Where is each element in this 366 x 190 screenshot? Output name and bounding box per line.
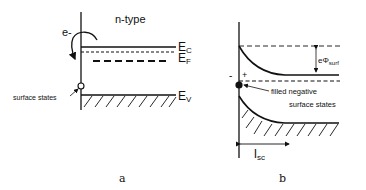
ev-label: EV <box>178 89 192 104</box>
minus-sign: - <box>229 70 232 81</box>
filled-states-label-1: filled negative <box>271 87 317 96</box>
barrier-label: eΦsurf <box>318 56 339 66</box>
empty-surface-state-icon <box>78 83 84 89</box>
electron-label: e- <box>62 26 72 38</box>
filled-surface-state-icon <box>235 81 242 88</box>
electron-transfer-arrow-icon <box>72 32 97 59</box>
band-diagram: n-type e- surface states <box>0 0 366 190</box>
n-type-title: n-type <box>115 13 146 25</box>
valence-hatching-a <box>84 96 176 107</box>
plus-sign: + <box>242 70 247 80</box>
panel-a: n-type e- surface states <box>13 12 192 185</box>
caption-a: a <box>119 172 126 185</box>
surface-state-pointer-icon <box>70 89 78 96</box>
caption-b: b <box>279 172 286 185</box>
surface-states-label: surface states <box>13 94 57 101</box>
depletion-width-label: lsc <box>254 146 265 162</box>
panel-b: eΦsurf - + filled negative surface state… <box>229 22 340 185</box>
filled-state-pointer-icon <box>244 85 269 91</box>
filled-states-label-2: surface states <box>289 100 336 109</box>
